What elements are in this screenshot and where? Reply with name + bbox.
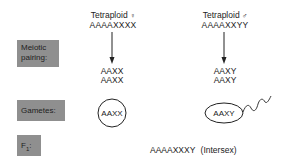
male-arrow-icon bbox=[222, 32, 227, 64]
female-arrow-icon bbox=[110, 32, 115, 64]
diagram-graphics bbox=[0, 0, 282, 166]
sperm-head-icon bbox=[205, 103, 243, 123]
sperm-tail-icon bbox=[243, 96, 271, 112]
egg-circle-icon bbox=[98, 99, 126, 127]
